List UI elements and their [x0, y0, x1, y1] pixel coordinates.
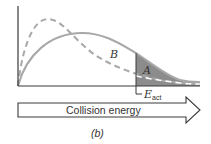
energy-distribution-diagram: B A Eact Collision energy (b)	[0, 0, 211, 144]
label-region-a: A	[142, 64, 151, 77]
label-region-b: B	[109, 48, 118, 61]
label-activation-energy-main: E	[143, 88, 152, 101]
label-activation-energy: Eact	[143, 88, 161, 101]
collision-energy-label: Collision energy	[66, 104, 141, 116]
label-activation-energy-sub: act	[152, 94, 161, 101]
panel-label: (b)	[91, 127, 104, 139]
